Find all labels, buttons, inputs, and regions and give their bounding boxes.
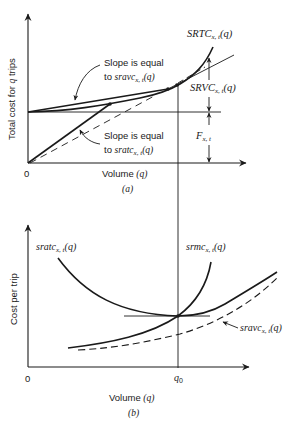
annotation-sratc-arg: (q) [142,145,153,155]
x-axis-label-b-var: (q) [143,393,154,403]
srmc-arg: (q) [214,241,226,252]
annotation-sravc-line1: Slope is equal [104,56,164,70]
annotation-sratc-line2: to sratcx, t(q) [104,143,164,160]
srvc-arg: (q) [223,82,235,93]
upper-dashed-segment [178,67,205,83]
annotation-sratc-pre: to [104,144,115,155]
annotation-sravc-line2: to sravcx, t(q) [104,70,164,87]
q0-label: q0 [174,373,183,384]
y-axis-label-a-pre: Total cost for [6,84,17,141]
srmc-main: srmc [186,241,205,252]
origin-label-a: 0 [24,169,29,179]
annotation-sravc: Slope is equal to sravcx, t(q) [104,56,164,87]
sratc-main: sratc [36,241,56,252]
srtc-label: SRTCx, t(q) [187,28,232,41]
sratc-curve [58,258,277,316]
x-axis-label-b: Volume (q) [109,393,154,404]
sratc-leader-arrow [80,130,100,144]
annotation-sravc-arg: (q) [144,72,155,82]
srtc-sub: x, t [212,33,221,41]
x-axis-label-a-pre: Volume [102,168,136,179]
sratc-sub: x, t [56,246,65,254]
y-axis-label-a: Total cost for q trips [6,58,17,140]
annotation-sratc-line1: Slope is equal [104,129,164,143]
srtc-arg: (q) [220,28,232,39]
point-ray-tangent [108,102,112,106]
sravc-main: sravc [240,322,262,333]
annotation-sratc: Slope is equal to sratcx, t(q) [104,129,164,160]
annotation-sravc-fn: sravc [115,72,136,82]
sratc-label: sratcx, t(q) [36,242,76,254]
origin-label-b: 0 [25,374,30,384]
srmc-label: srmcx, t(q) [186,242,226,254]
srvc-main: SRVC [190,82,215,93]
annotation-sratc-fn: sratc [115,145,134,155]
point-q0 [175,83,179,87]
sravc-leader-arrow-b [223,322,238,328]
y-axis-label-b: Cost per trip [8,273,19,325]
srtc-main: SRTC [187,28,212,39]
annotation-sravc-sub: x, t [135,76,144,84]
caption-a: (a) [122,185,133,195]
sratc-arg: (q) [65,241,77,252]
x-axis-label-a-var: (q) [136,169,147,179]
fixed-cost-label: Fx, t [196,130,211,143]
sravc-arg: (q) [270,322,282,333]
q0-sub: 0 [179,377,183,384]
annotation-sravc-pre: to [104,71,115,82]
fixed-sub: x, t [202,135,211,143]
point-min-sratc [176,314,180,318]
srmc-curve [68,262,211,348]
caption-b: (b) [128,409,139,419]
srmc-sub: x, t [205,246,214,254]
sratc-ray [28,104,110,163]
y-axis-label-a-var: q [7,79,17,84]
annotation-sratc-sub: x, t [134,149,143,157]
sravc-sub: x, t [262,327,271,335]
x-axis-label-a: Volume (q) [102,169,147,180]
sravc-tangent-line [28,89,168,112]
sravc-leader-arrow [75,65,100,100]
x-axis-label-b-pre: Volume [109,392,143,403]
srvc-label: SRVCx, t(q) [190,82,236,95]
y-axis-label-a-post: trips [6,58,17,79]
sravc-label: sravcx, t(q) [240,323,282,335]
point-tangent [166,87,170,91]
